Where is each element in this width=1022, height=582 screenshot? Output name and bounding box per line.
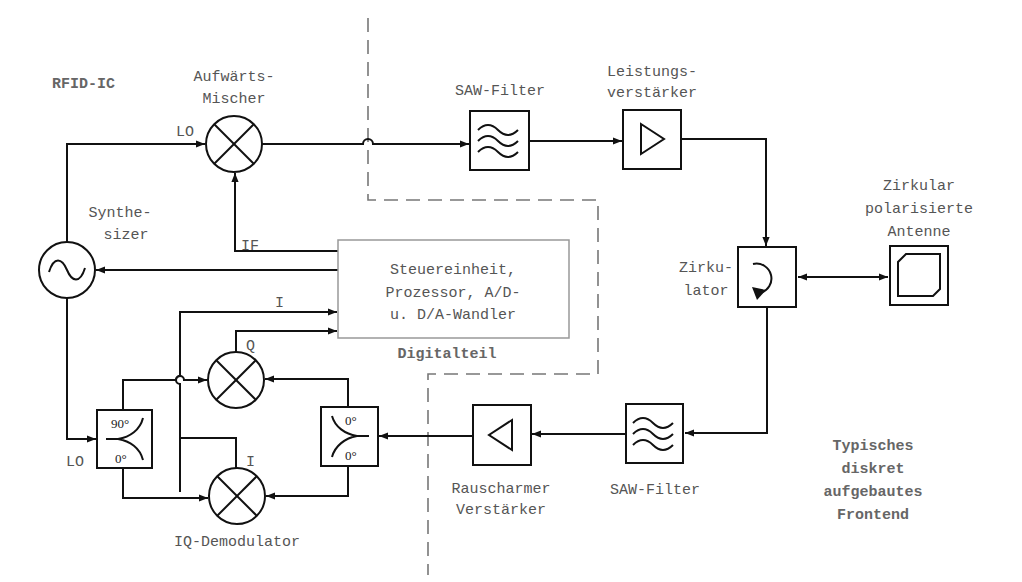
wire-splitter-to-i-mixer	[266, 466, 348, 496]
lna-label-2: Verstärker	[456, 502, 546, 519]
splitter-bottom-port-label: 0°	[345, 448, 357, 463]
wire-hybrid-90-to-q-mixer	[123, 376, 207, 410]
synthesizer-label-1: Synthe-	[88, 205, 151, 222]
mixer-icon	[206, 116, 262, 172]
power-splitter-icon: 0° 0°	[321, 407, 378, 466]
wire-hybrid-0-to-i-mixer	[123, 469, 208, 498]
q-mixer-icon	[208, 352, 264, 408]
bandpass-filter-icon	[470, 111, 529, 170]
amplifier-icon	[623, 110, 681, 169]
lo-down-signal-label: LO	[66, 454, 84, 471]
power-amp-label-1: Leistungs-	[607, 64, 697, 81]
saw-filter-tx-label: SAW-Filter	[455, 83, 545, 100]
oscillator-icon	[39, 242, 95, 298]
wire-pa-to-circulator	[682, 139, 766, 246]
frontend-label-2: diskret	[841, 461, 904, 478]
control-unit-box: Steuereinheit, Prozessor, A/D- u. D/A-Wa…	[338, 240, 569, 338]
wire-i-to-control	[176, 312, 337, 492]
i-output-signal-label: I	[275, 295, 284, 312]
antenna-label-1: Zirkular	[883, 178, 955, 195]
q-signal-label: Q	[246, 338, 255, 355]
if-signal-label: IF	[241, 238, 259, 255]
iq-demodulator-label: IQ-Demodulator	[174, 534, 300, 551]
up-mixer-label-1: Aufwärts-	[193, 69, 274, 86]
antenna-label-3: Antenne	[887, 224, 950, 241]
circulator-icon	[738, 247, 796, 307]
circulator-label-2: lator	[683, 283, 728, 300]
wire-synthesizer-to-hybrid	[67, 298, 96, 439]
patch-antenna-icon	[890, 246, 948, 305]
wire-splitter-to-q-mixer	[265, 379, 348, 407]
frontend-label-1: Typisches	[832, 438, 913, 455]
power-amp-label-2: verstärker	[607, 85, 697, 102]
frontend-label-3: aufgebautes	[823, 484, 922, 501]
hybrid-0-port-label: 0°	[115, 451, 127, 466]
rfid-reader-block-diagram: RFID-IC Aufwärts- Mischer SAW-Filter Lei…	[0, 0, 1022, 582]
splitter-top-port-label: 0°	[345, 413, 357, 428]
saw-filter-rx-label: SAW-Filter	[610, 482, 700, 499]
lna-label-1: Rauscharmer	[451, 481, 550, 498]
synthesizer-label-2: sizer	[103, 227, 148, 244]
control-unit-label-1: Steuereinheit,	[390, 262, 516, 279]
up-mixer-label-2: Mischer	[202, 91, 265, 108]
rfid-ic-label: RFID-IC	[52, 76, 115, 93]
wire-circulator-to-saw-rx	[685, 308, 767, 433]
lo-up-signal-label: LO	[176, 124, 194, 141]
circulator-label-1: Zirku-	[679, 260, 733, 277]
i-mixer-signal-label: I	[246, 454, 255, 471]
bandpass-filter-rx-icon	[626, 404, 683, 463]
frontend-label-4: Frontend	[837, 507, 909, 524]
i-mixer-icon	[209, 468, 265, 524]
antenna-label-2: polarisierte	[865, 201, 973, 218]
hybrid-coupler-icon: 90° 0°	[97, 410, 152, 468]
hybrid-90-port-label: 90°	[111, 416, 129, 431]
lna-amplifier-icon	[473, 405, 531, 465]
wire-up-mixer-to-saw	[262, 139, 469, 144]
control-unit-label-2: Prozessor, A/D-	[385, 285, 520, 302]
digital-section-label: Digitalteil	[397, 346, 496, 363]
control-unit-label-3: u. D/A-Wandler	[390, 307, 516, 324]
